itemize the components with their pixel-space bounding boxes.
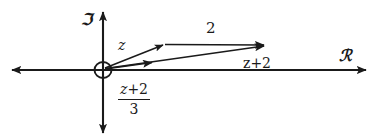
vector-two <box>165 45 264 46</box>
figure-canvas <box>0 0 377 140</box>
imaginary-axis-label: ℑ <box>81 12 92 28</box>
vector-z-label: z <box>118 38 125 52</box>
fraction-numerator-operand: +2 <box>127 81 148 97</box>
fraction-denominator: 3 <box>118 101 150 118</box>
real-axis-label: ℛ <box>339 48 352 64</box>
vector-z-plus-2-label: z+2 <box>243 56 271 70</box>
vector-z-plus-2-over-3-label: z+2 3 <box>118 82 150 117</box>
fraction-numerator: z+2 <box>118 82 150 99</box>
complex-plane-figure: ℑ ℛ z 2 z+2 z+2 3 <box>0 0 377 140</box>
fraction-bar <box>118 99 150 100</box>
vector-two-label: 2 <box>206 21 216 36</box>
